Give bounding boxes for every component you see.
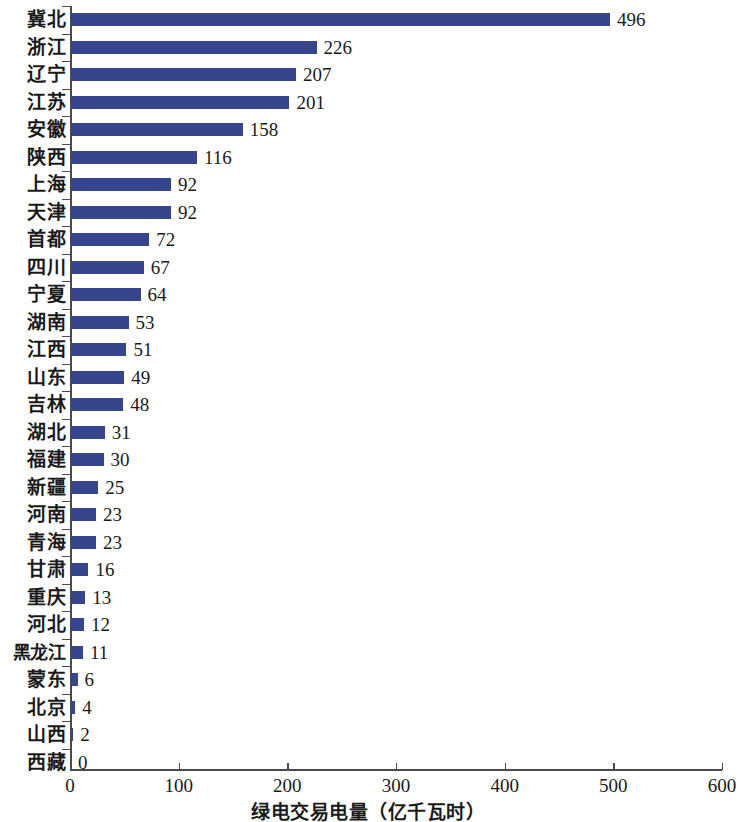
- bar-value-label: 48: [130, 391, 149, 419]
- bar-value-label: 72: [156, 226, 175, 254]
- bar: [71, 371, 124, 384]
- bar-row: 上海92: [0, 171, 736, 199]
- x-axis-tick: [287, 763, 288, 770]
- bar-row: 四川67: [0, 254, 736, 282]
- bar-value-label: 4: [82, 694, 92, 722]
- bar-value-label: 16: [95, 556, 114, 584]
- bar-row: 冀北496: [0, 6, 736, 34]
- bar: [71, 151, 197, 164]
- bar-value-label: 6: [85, 666, 95, 694]
- bar: [71, 701, 75, 714]
- bar-value-label: 201: [296, 89, 325, 117]
- bar-row: 河南23: [0, 501, 736, 529]
- bar-row: 甘肃16: [0, 556, 736, 584]
- bar: [71, 481, 98, 494]
- category-label: 蒙东: [0, 666, 66, 694]
- category-label: 天津: [0, 199, 66, 227]
- bar: [71, 68, 296, 81]
- category-label: 山东: [0, 364, 66, 392]
- bar: [71, 13, 610, 26]
- category-label: 福建: [0, 446, 66, 474]
- bar-row: 黑龙江11: [0, 639, 736, 667]
- category-label: 江苏: [0, 89, 66, 117]
- bar: [71, 398, 123, 411]
- category-label: 辽宁: [0, 61, 66, 89]
- bar-row: 河北12: [0, 611, 736, 639]
- x-axis-tick: [70, 763, 71, 770]
- x-axis-tick-label: 300: [361, 775, 431, 797]
- category-label: 湖北: [0, 419, 66, 447]
- x-axis-tick-label: 600: [687, 775, 741, 797]
- bar-row: 青海23: [0, 529, 736, 557]
- bar: [71, 316, 129, 329]
- bar-row: 湖北31: [0, 419, 736, 447]
- bar: [71, 728, 73, 741]
- bar: [71, 618, 84, 631]
- bar-row: 湖南53: [0, 309, 736, 337]
- bar-row: 陕西116: [0, 144, 736, 172]
- category-label: 青海: [0, 529, 66, 557]
- bar: [71, 426, 105, 439]
- bar: [71, 261, 144, 274]
- bar-value-label: 25: [105, 474, 124, 502]
- x-axis-tick: [396, 763, 397, 770]
- bar: [71, 178, 171, 191]
- bar-value-label: 158: [250, 116, 279, 144]
- bar-row: 北京4: [0, 694, 736, 722]
- category-label: 四川: [0, 254, 66, 282]
- category-label: 上海: [0, 171, 66, 199]
- bar: [71, 206, 171, 219]
- bar-value-label: 92: [178, 171, 197, 199]
- category-label: 重庆: [0, 584, 66, 612]
- bar-row: 重庆13: [0, 584, 736, 612]
- x-axis-tick-label: 0: [35, 775, 105, 797]
- bar-row: 首都72: [0, 226, 736, 254]
- bar-row: 浙江226: [0, 34, 736, 62]
- category-label: 甘肃: [0, 556, 66, 584]
- category-label: 首都: [0, 226, 66, 254]
- bar-row: 西藏0: [0, 749, 736, 777]
- bar-value-label: 30: [111, 446, 130, 474]
- category-label: 冀北: [0, 6, 66, 34]
- bar-value-label: 13: [92, 584, 111, 612]
- category-label: 黑龙江: [0, 639, 66, 667]
- plot-area: 冀北496浙江226辽宁207江苏201安徽158陕西116上海92天津92首都…: [0, 0, 736, 772]
- bar-value-label: 92: [178, 199, 197, 227]
- bar: [71, 288, 141, 301]
- bar: [71, 343, 126, 356]
- bar: [71, 96, 289, 109]
- bar: [71, 233, 149, 246]
- category-label: 江西: [0, 336, 66, 364]
- bar-row: 蒙东6: [0, 666, 736, 694]
- bar: [71, 591, 85, 604]
- bar: [71, 563, 88, 576]
- bar-row: 安徽158: [0, 116, 736, 144]
- x-axis-tick-label: 100: [144, 775, 214, 797]
- x-axis-tick: [179, 763, 180, 770]
- bar-value-label: 49: [131, 364, 150, 392]
- x-axis-tick-label: 400: [470, 775, 540, 797]
- bar-value-label: 12: [91, 611, 110, 639]
- bar-row: 吉林48: [0, 391, 736, 419]
- x-axis-title: 绿电交易电量（亿千瓦时）: [0, 797, 736, 822]
- bar-row: 山西2: [0, 721, 736, 749]
- bar-row: 江西51: [0, 336, 736, 364]
- bar-row: 辽宁207: [0, 61, 736, 89]
- category-label: 河南: [0, 501, 66, 529]
- bar-row: 福建30: [0, 446, 736, 474]
- bar-value-label: 53: [136, 309, 155, 337]
- x-axis-tick-label: 500: [578, 775, 648, 797]
- bar-row: 天津92: [0, 199, 736, 227]
- bar-value-label: 23: [103, 529, 122, 557]
- bar-value-label: 116: [204, 144, 232, 172]
- category-label: 陕西: [0, 144, 66, 172]
- bar: [71, 536, 96, 549]
- bar-value-label: 23: [103, 501, 122, 529]
- category-label: 新疆: [0, 474, 66, 502]
- category-label: 河北: [0, 611, 66, 639]
- bar-value-label: 11: [90, 639, 108, 667]
- bar-value-label: 67: [151, 254, 170, 282]
- bar: [71, 41, 317, 54]
- bar-value-label: 207: [303, 61, 332, 89]
